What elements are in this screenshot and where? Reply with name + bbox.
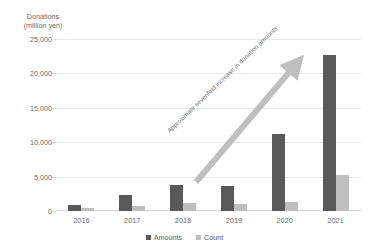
y-axis-title-line-2: (million yen) (10, 21, 76, 30)
bar-count-2021[interactable] (336, 175, 349, 211)
y-axis-title: Donations (million yen) (10, 12, 76, 30)
bar-amounts-2021[interactable] (323, 55, 336, 211)
bar-count-2017[interactable] (132, 206, 145, 212)
bar-amounts-2018[interactable] (170, 185, 183, 211)
bar-amounts-2017[interactable] (119, 195, 132, 212)
bar-group-2018: 2018 (158, 39, 209, 211)
legend-label-count: Count (204, 233, 223, 242)
x-axis-label-2020: 2020 (259, 216, 310, 225)
x-axis-label-2021: 2021 (310, 216, 361, 225)
legend-swatch-amounts (146, 235, 151, 240)
y-axis-tick-label: 10,000 (6, 138, 52, 147)
legend-label-amounts: Amounts (154, 233, 182, 242)
chart-plot-area: 05,00010,00015,00020,00025,000 201620172… (56, 39, 361, 211)
x-axis-label-2017: 2017 (107, 216, 158, 225)
x-axis-label-2019: 2019 (208, 216, 259, 225)
cut-off-title-strip (0, 0, 369, 9)
bar-groups: 201620172018201920202021 (56, 39, 361, 211)
y-axis-tick-mark (53, 211, 56, 212)
bar-count-2020[interactable] (285, 202, 298, 211)
bar-count-2016[interactable] (81, 208, 94, 211)
bar-count-2018[interactable] (183, 203, 196, 211)
bar-amounts-2020[interactable] (272, 134, 285, 211)
x-axis-label-2018: 2018 (158, 216, 209, 225)
legend-item-count[interactable]: Count (196, 233, 223, 242)
y-axis-tick-label: 20,000 (6, 69, 52, 78)
y-axis-tick-label: 15,000 (6, 103, 52, 112)
chart-legend: AmountsCount (0, 233, 369, 242)
bar-group-2017: 2017 (107, 39, 158, 211)
bar-amounts-2016[interactable] (68, 205, 81, 211)
bar-group-2020: 2020 (259, 39, 310, 211)
y-axis-tick-label: 25,000 (6, 35, 52, 44)
bar-group-2016: 2016 (56, 39, 107, 211)
y-axis-tick-label: 0 (6, 207, 52, 216)
y-axis-title-line-1: Donations (10, 12, 76, 21)
y-axis-tick-label: 5,000 (6, 172, 52, 181)
x-axis-label-2016: 2016 (56, 216, 107, 225)
bar-group-2021: 2021 (310, 39, 361, 211)
bar-count-2019[interactable] (234, 204, 247, 211)
legend-item-amounts[interactable]: Amounts (146, 233, 182, 242)
bar-amounts-2019[interactable] (221, 186, 234, 211)
legend-swatch-count (196, 235, 201, 240)
